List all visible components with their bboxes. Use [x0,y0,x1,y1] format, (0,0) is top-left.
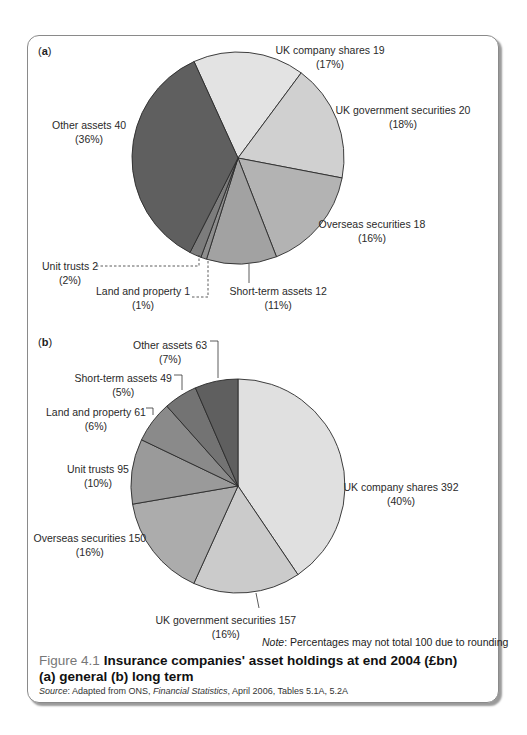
slice-label: Short-term assets 12(11%) [230,284,327,312]
slice-label: Short-term assets 49(5%) [75,371,172,399]
slice-label: UK government securities 20(18%) [336,103,471,131]
leader-uk-gov-b [256,593,259,608]
slice-label: Unit trusts 2(2%) [42,259,98,287]
slice-label: Land and property 1(1%) [96,284,190,312]
leader-other-assets [210,341,218,378]
leader-land-property-b [146,408,153,415]
panel-label-a: (a) [38,45,51,57]
leader-land-property [192,261,208,297]
source-line: Source: Adapted from ONS, Financial Stat… [39,686,348,696]
figure-caption: Figure 4.1Insurance companies' asset hol… [39,653,457,685]
pie-chart-b [131,379,345,593]
rounding-note: Note: Percentages may not total 100 due … [262,636,508,648]
panel-label-b: (b) [38,336,52,348]
slice-label: UK company shares 19(17%) [276,43,385,71]
pie-chart-a [132,52,344,264]
slice-label: Other assets 63(7%) [133,338,207,366]
figure-number: Figure 4.1 [39,653,100,668]
leader-unit-trusts [96,255,199,266]
leader-short-term-b [174,375,182,390]
slice-label: Land and property 61(6%) [46,405,146,433]
slice-label: Unit trusts 95(10%) [67,462,129,490]
figure-title-line2: (a) general (b) long term [39,669,194,684]
slice-label: Overseas securities 150(16%) [34,531,147,559]
slice-label: UK company shares 392(40%) [344,480,459,508]
figure-title-line1: Insurance companies' asset holdings at e… [104,653,458,668]
slice-label: Overseas securities 18(16%) [319,217,426,245]
slice-label: Other assets 40(36%) [52,118,126,146]
